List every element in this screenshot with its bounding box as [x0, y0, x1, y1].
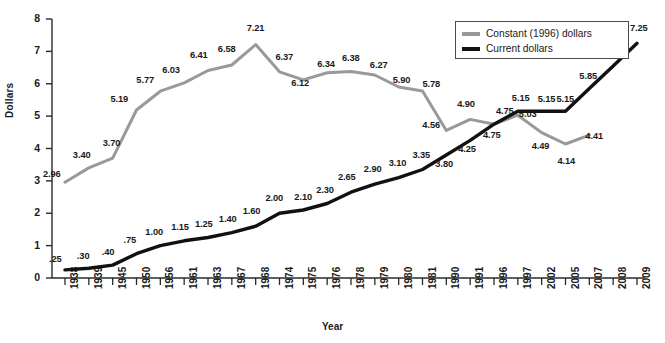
chart-legend: Constant (1996) dollars Current dollars [455, 21, 629, 59]
data-point-label: 6.27 [370, 60, 388, 70]
data-point-label: 3.40 [73, 150, 91, 160]
data-point-label: 1.25 [195, 219, 213, 229]
data-point-label: 6.12 [291, 78, 309, 88]
data-point-label: 7.21 [247, 23, 265, 33]
data-point-label: 3.70 [103, 138, 121, 148]
data-point-label: 5.77 [136, 75, 154, 85]
data-point-label: 5.90 [393, 75, 411, 85]
data-point-label: 5.15 [557, 94, 575, 104]
data-point-label: 5.85 [579, 71, 597, 81]
data-point-label: 4.25 [458, 144, 476, 154]
data-point-label: 1.00 [145, 227, 163, 237]
data-point-label: 6.41 [190, 50, 208, 60]
legend-item-current: Current dollars [462, 41, 622, 56]
data-point-label: 4.56 [422, 120, 440, 130]
data-point-label: 4.90 [457, 99, 475, 109]
data-point-label: 4.75 [496, 106, 514, 116]
x-axis-title: Year [322, 321, 343, 332]
data-point-label: 6.34 [317, 59, 335, 69]
data-point-label: 2.96 [43, 169, 61, 179]
data-point-label: 1.40 [219, 214, 237, 224]
data-point-label: 1.15 [171, 222, 189, 232]
data-point-label: 7.25 [630, 23, 648, 33]
data-point-label: 5.03 [519, 109, 537, 119]
data-point-label: 2.65 [338, 172, 356, 182]
data-point-label: .25 [49, 254, 62, 264]
data-point-label: .30 [77, 251, 90, 261]
data-point-label: 4.41 [585, 131, 603, 141]
legend-swatch-current [462, 47, 480, 51]
data-point-label: .40 [102, 247, 115, 257]
data-point-label: 5.78 [423, 79, 441, 89]
legend-label-current: Current dollars [486, 43, 553, 54]
data-point-label: .75 [124, 235, 137, 245]
data-point-label: 2.00 [266, 193, 284, 203]
data-point-label: 3.10 [389, 158, 407, 168]
data-point-label: 4.49 [532, 141, 550, 151]
legend-label-constant: Constant (1996) dollars [486, 28, 592, 39]
data-point-label: 6.03 [162, 65, 180, 75]
data-point-label: 2.10 [294, 192, 312, 202]
data-point-label: 5.19 [111, 94, 129, 104]
data-point-label: 5.15 [512, 93, 530, 103]
data-point-label: 5.15 [538, 94, 556, 104]
chart-container: Dollars 012345678 1938193919451950195619… [0, 0, 665, 343]
legend-swatch-constant [462, 32, 480, 36]
data-point-label: 2.30 [316, 185, 334, 195]
data-point-label: 4.14 [558, 156, 576, 166]
data-point-label: 3.35 [413, 150, 431, 160]
data-point-label: 2.90 [364, 164, 382, 174]
data-point-label: 3.80 [435, 159, 453, 169]
data-point-label: 4.75 [483, 130, 501, 140]
data-point-label: 6.37 [276, 52, 294, 62]
data-point-label: 1.60 [243, 206, 261, 216]
data-point-label: 6.38 [342, 53, 360, 63]
legend-item-constant: Constant (1996) dollars [462, 26, 622, 41]
data-point-label: 6.58 [218, 44, 236, 54]
